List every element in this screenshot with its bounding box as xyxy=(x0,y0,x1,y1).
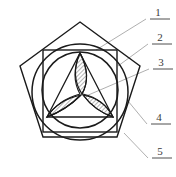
leader-line-4 xyxy=(128,101,147,124)
callout-5: 5 xyxy=(152,145,172,158)
leader-line-2 xyxy=(118,44,148,66)
petal-bottom-right xyxy=(83,95,113,117)
callout-4: 4 xyxy=(151,111,171,124)
callout-labels: 1 2 3 4 5 xyxy=(150,6,173,158)
callout-label-4: 4 xyxy=(156,111,162,123)
callout-1: 1 xyxy=(150,6,170,19)
trefoil-petals xyxy=(47,53,113,117)
leader-line-1 xyxy=(96,19,146,50)
callout-label-3: 3 xyxy=(158,56,164,68)
callout-label-2: 2 xyxy=(157,31,163,43)
leader-line-5 xyxy=(124,133,148,158)
callout-label-1: 1 xyxy=(155,6,161,18)
callout-3: 3 xyxy=(153,56,173,69)
callout-2: 2 xyxy=(152,31,172,44)
callout-label-5: 5 xyxy=(157,145,163,157)
figure-container: 1 2 3 4 5 xyxy=(0,0,176,177)
geometric-figure: 1 2 3 4 5 xyxy=(0,0,176,177)
